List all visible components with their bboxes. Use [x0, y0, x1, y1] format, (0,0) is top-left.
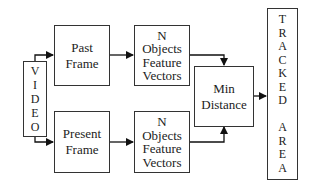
tracked-letter: T	[279, 13, 286, 27]
tracked-letter: E	[279, 81, 286, 95]
tracked-area-box: T R A C K E D A R E A	[267, 8, 298, 180]
min-distance-label: Distance	[201, 97, 246, 113]
tracked-letter: R	[278, 135, 286, 149]
bottom-feature-vectors-box: N Objects Feature Vectors	[134, 111, 190, 173]
min-distance-box: Min Distance	[194, 66, 254, 127]
feature-label: Vectors	[143, 69, 182, 83]
feature-label: Vectors	[143, 156, 182, 170]
feature-label: Objects	[142, 129, 182, 143]
arrow-top-features-to-min	[189, 55, 224, 65]
tracked-letter: E	[279, 148, 286, 162]
past-frame-box: Past Frame	[54, 25, 110, 86]
feature-label: Feature	[143, 56, 182, 70]
tracked-letter: A	[278, 40, 287, 54]
video-letter: O	[31, 120, 40, 134]
tracked-letter: D	[278, 94, 287, 108]
past-frame-label: Past	[71, 40, 93, 56]
feature-label: Feature	[143, 142, 182, 156]
video-box: V I D E O	[23, 61, 47, 137]
video-letter: E	[31, 106, 38, 120]
video-letter: D	[31, 92, 40, 106]
feature-label: Objects	[142, 42, 182, 56]
tracked-letter: K	[278, 67, 287, 81]
present-frame-box: Present Frame	[54, 111, 110, 173]
present-frame-label: Frame	[65, 142, 98, 158]
min-distance-label: Min	[213, 81, 235, 97]
present-frame-label: Present	[63, 126, 101, 142]
feature-label: N	[157, 29, 166, 43]
top-feature-vectors-box: N Objects Feature Vectors	[134, 25, 190, 86]
arrow-bottom-features-to-min	[189, 127, 224, 142]
tracked-letter: A	[278, 162, 287, 176]
tracked-letter: A	[278, 121, 287, 135]
tracked-letter: C	[278, 54, 286, 68]
tracked-letter: R	[278, 27, 286, 41]
video-letter: I	[33, 78, 37, 92]
video-letter: V	[31, 64, 40, 78]
past-frame-label: Frame	[65, 56, 98, 72]
feature-label: N	[157, 115, 166, 129]
